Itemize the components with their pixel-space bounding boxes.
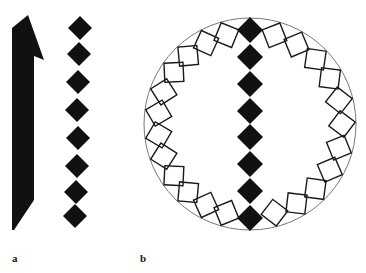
filled-diamond — [237, 124, 263, 150]
figure: a b — [0, 0, 366, 273]
outlined-square — [284, 32, 309, 57]
outlined-square — [329, 111, 356, 138]
filled-diamond — [237, 98, 263, 124]
filled-diamond — [237, 205, 263, 231]
outlined-square — [262, 23, 287, 48]
outlined-square — [319, 68, 340, 89]
outlined-square — [146, 100, 172, 126]
outlined-square — [151, 79, 177, 105]
filled-diamond — [67, 42, 91, 66]
panel-a — [12, 15, 92, 230]
filled-diamond — [65, 154, 89, 178]
diamond-chain-b — [237, 17, 263, 231]
diamond-chain-a — [63, 16, 92, 228]
arrow-icon — [12, 15, 44, 230]
filled-diamond — [65, 98, 89, 122]
outlined-square — [305, 49, 327, 71]
filled-diamond — [237, 44, 263, 70]
outlined-square — [261, 199, 288, 226]
filled-diamond — [63, 204, 87, 228]
filled-diamond — [237, 151, 263, 177]
diagram-canvas — [0, 0, 366, 273]
outlined-square — [146, 122, 172, 148]
filled-diamond — [66, 70, 90, 94]
outlined-square — [214, 201, 239, 226]
outlined-square — [326, 87, 353, 114]
outlined-square — [327, 135, 352, 160]
outlined-square — [214, 23, 239, 48]
outlined-square — [305, 178, 326, 199]
filled-diamond — [237, 17, 263, 43]
outlined-square — [317, 157, 342, 182]
panel-b — [144, 17, 356, 231]
panel-label-a: a — [12, 252, 18, 264]
outlined-square — [286, 193, 307, 214]
filled-diamond — [64, 180, 88, 204]
filled-diamond — [237, 71, 263, 97]
filled-diamond — [66, 126, 90, 150]
filled-diamond — [68, 16, 92, 40]
filled-diamond — [237, 178, 263, 204]
outlined-square — [151, 143, 177, 169]
panel-label-b: b — [140, 252, 146, 264]
